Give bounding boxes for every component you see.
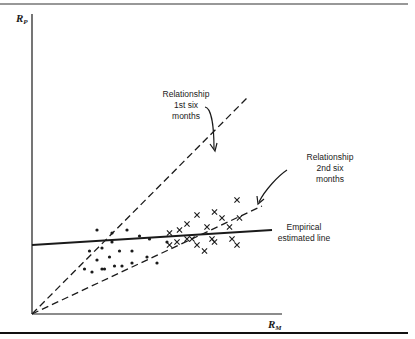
data-point-cross: [234, 242, 239, 247]
data-point-dot: [113, 264, 116, 267]
annotation-first-line2: 1st six: [174, 100, 199, 110]
data-point-dot: [110, 231, 113, 234]
scatter-points: [83, 197, 242, 273]
data-point-cross: [212, 209, 217, 214]
data-point-dot: [145, 255, 148, 258]
data-point-cross: [194, 212, 199, 217]
data-point-dot: [125, 228, 128, 231]
data-point-dot: [103, 267, 106, 270]
data-point-dot: [138, 234, 141, 237]
data-point-cross: [194, 242, 199, 247]
data-point-dot: [90, 270, 93, 273]
empirical-estimated-line: [32, 230, 272, 245]
data-point-cross: [167, 242, 172, 247]
data-point-cross: [212, 239, 217, 244]
data-point-cross: [177, 227, 182, 232]
data-point-cross: [202, 248, 207, 253]
annotation-first-line3: months: [172, 111, 200, 121]
data-point-cross: [174, 239, 179, 244]
data-point-dot: [88, 249, 91, 252]
data-point-cross: [227, 224, 232, 229]
data-point-cross: [204, 224, 209, 229]
relationship-line-second-half: [32, 206, 262, 314]
figure: RP RM Relationship 1st six months Relati…: [0, 0, 415, 339]
annotation-first-line1: Relationship: [163, 89, 210, 99]
y-axis-label: RP: [15, 12, 28, 26]
data-point-dot: [130, 249, 133, 252]
annotation-second-line1: Relationship: [307, 152, 354, 162]
annotation-second-line2: 2nd six: [317, 163, 345, 173]
arrow-second-half: [259, 170, 287, 202]
arrow-first-half: [205, 107, 214, 149]
data-point-cross: [234, 197, 239, 202]
annotation-second-line3: months: [316, 174, 344, 184]
annotation-second-half: Relationship 2nd six months: [257, 152, 354, 204]
data-point-dot: [110, 240, 113, 243]
relationship-lines: [32, 98, 272, 314]
data-point-dot: [120, 264, 123, 267]
data-point-dot: [148, 237, 151, 240]
relationship-line-first-half: [32, 98, 247, 314]
data-point-dot: [118, 249, 121, 252]
data-point-dot: [108, 255, 111, 258]
data-point-dot: [83, 267, 86, 270]
annotation-empirical: Empirical estimated line: [278, 222, 331, 243]
data-point-dot: [155, 261, 158, 264]
annotation-empirical-line1: Empirical: [287, 222, 322, 232]
annotation-first-half: Relationship 1st six months: [163, 89, 217, 151]
x-axis-label: RM: [267, 318, 282, 332]
data-point-dot: [100, 246, 103, 249]
data-point-dot: [95, 258, 98, 261]
data-point-dot: [95, 228, 98, 231]
data-point-cross: [189, 236, 194, 241]
data-point-dot: [130, 261, 133, 264]
data-point-cross: [184, 221, 189, 226]
annotation-empirical-line2: estimated line: [278, 233, 331, 243]
data-point-cross: [229, 236, 234, 241]
data-point-cross: [219, 215, 224, 220]
data-point-cross: [167, 230, 172, 235]
